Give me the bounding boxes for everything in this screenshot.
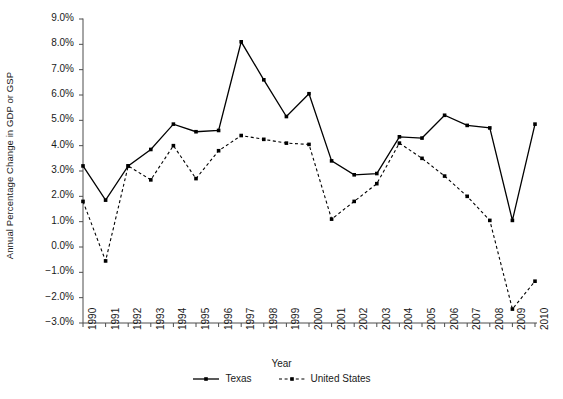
data-point-marker xyxy=(511,219,515,223)
data-point-marker xyxy=(533,122,537,126)
plot-area xyxy=(0,0,563,399)
data-point-marker xyxy=(420,136,424,140)
data-point-marker xyxy=(375,182,379,186)
data-point-marker xyxy=(81,200,85,204)
x-axis-tick-label: 1997 xyxy=(245,308,256,330)
data-point-marker xyxy=(81,164,85,168)
x-axis-tick-label: 1990 xyxy=(87,308,98,330)
legend-swatch-dashed-line-icon xyxy=(278,374,306,384)
data-point-marker xyxy=(262,138,266,142)
series-line-texas xyxy=(83,42,535,221)
data-point-marker xyxy=(194,130,198,134)
x-axis-tick-label: 1994 xyxy=(177,308,188,330)
x-axis-tick-label: 1998 xyxy=(268,308,279,330)
x-axis-tick-label: 1993 xyxy=(155,308,166,330)
data-point-marker xyxy=(172,122,176,126)
data-point-marker xyxy=(217,149,221,153)
data-point-marker xyxy=(104,198,108,202)
data-point-marker xyxy=(104,259,108,263)
chart-figure: Annual Percentage Change in GDP or GSP 9… xyxy=(0,0,563,399)
x-axis-tick-label: 2008 xyxy=(494,308,505,330)
data-point-marker xyxy=(307,143,311,147)
legend-entry: Texas xyxy=(192,374,251,384)
x-axis-tick-label: 2001 xyxy=(336,308,347,330)
legend-label: United States xyxy=(311,374,371,384)
x-axis-tick-label: 2010 xyxy=(539,308,550,330)
data-point-marker xyxy=(126,164,130,168)
data-point-marker xyxy=(285,141,289,145)
data-point-marker xyxy=(352,200,356,204)
data-point-marker xyxy=(194,177,198,181)
x-axis-tick-label: 1992 xyxy=(132,308,143,330)
x-axis-tick-label: 1996 xyxy=(223,308,234,330)
legend-label: Texas xyxy=(225,374,251,384)
data-point-marker xyxy=(533,279,537,283)
x-axis-tick-label: 2003 xyxy=(381,308,392,330)
data-point-marker xyxy=(511,307,515,311)
legend-swatch-solid-line-icon xyxy=(192,374,220,384)
data-point-marker xyxy=(239,134,243,138)
data-point-marker xyxy=(443,174,447,178)
data-point-marker xyxy=(307,92,311,96)
data-point-marker xyxy=(149,178,153,182)
data-point-marker xyxy=(285,115,289,119)
data-point-marker xyxy=(375,172,379,176)
x-axis-tick-label: 2004 xyxy=(403,308,414,330)
data-point-marker xyxy=(262,78,266,82)
data-point-marker xyxy=(465,195,469,199)
data-point-marker xyxy=(488,219,492,223)
x-axis-tick-label: 1999 xyxy=(290,308,301,330)
data-point-marker xyxy=(420,157,424,161)
legend-entry: United States xyxy=(278,374,371,384)
x-axis-tick-label: 1991 xyxy=(110,308,121,330)
x-axis-tick-label: 2000 xyxy=(313,308,324,330)
data-point-marker xyxy=(465,124,469,128)
chart-legend: TexasUnited States xyxy=(0,374,563,384)
data-point-marker xyxy=(443,113,447,117)
data-point-marker xyxy=(217,129,221,133)
data-point-marker xyxy=(352,173,356,177)
x-axis-title: Year xyxy=(0,358,563,369)
series-line-united-states xyxy=(83,136,535,310)
x-axis-tick-label: 2005 xyxy=(426,308,437,330)
data-point-marker xyxy=(330,217,334,221)
data-point-marker xyxy=(239,40,243,44)
x-axis-tick-label: 2009 xyxy=(516,308,527,330)
x-axis-tick-label: 1995 xyxy=(200,308,211,330)
data-point-marker xyxy=(172,144,176,148)
data-point-marker xyxy=(330,159,334,163)
x-axis-tick-label: 2002 xyxy=(358,308,369,330)
data-point-marker xyxy=(149,148,153,152)
x-axis-tick-label: 2006 xyxy=(449,308,460,330)
data-point-marker xyxy=(488,126,492,130)
x-axis-tick-label: 2007 xyxy=(471,308,482,330)
data-point-marker xyxy=(398,135,402,139)
data-point-marker xyxy=(398,141,402,145)
